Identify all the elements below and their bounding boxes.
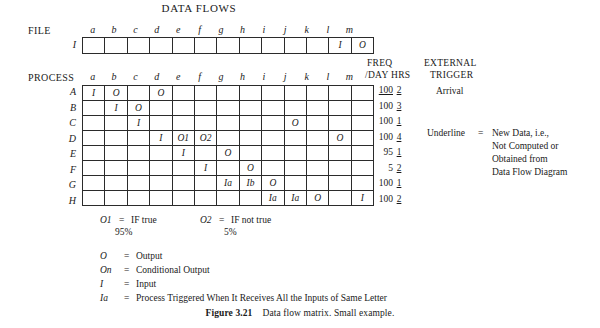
file-cell-I-l[interactable]: I — [329, 38, 351, 54]
process-cell-E-i[interactable] — [262, 146, 284, 161]
process-cell-F-k[interactable] — [306, 161, 328, 176]
process-cell-B-d[interactable] — [150, 101, 172, 116]
process-cell-A-k[interactable] — [306, 86, 328, 101]
process-cell-B-l[interactable] — [329, 101, 351, 116]
process-cell-E-a[interactable] — [83, 146, 105, 161]
process-cell-H-e[interactable] — [172, 191, 194, 206]
process-cell-D-k[interactable] — [306, 131, 328, 146]
file-cell-I-d[interactable] — [150, 38, 172, 54]
process-cell-H-b[interactable] — [105, 191, 127, 206]
process-cell-E-h[interactable] — [239, 146, 261, 161]
process-cell-C-i[interactable] — [262, 116, 284, 131]
process-cell-D-e[interactable]: O1 — [172, 131, 194, 146]
process-cell-E-d[interactable] — [150, 146, 172, 161]
process-cell-F-a[interactable] — [83, 161, 105, 176]
process-cell-B-c[interactable]: O — [127, 101, 149, 116]
file-cell-I-m[interactable]: O — [351, 38, 373, 54]
process-cell-E-e[interactable]: I — [172, 146, 194, 161]
process-cell-F-d[interactable] — [150, 161, 172, 176]
process-cell-F-l[interactable] — [329, 161, 351, 176]
process-cell-H-j[interactable]: Ia — [284, 191, 306, 206]
process-cell-A-j[interactable] — [284, 86, 306, 101]
process-cell-G-i[interactable]: O — [262, 176, 284, 191]
process-cell-C-l[interactable] — [329, 116, 351, 131]
process-cell-B-j[interactable] — [284, 101, 306, 116]
process-cell-D-l[interactable]: O — [329, 131, 351, 146]
process-cell-C-g[interactable] — [217, 116, 239, 131]
process-cell-C-j[interactable]: O — [284, 116, 306, 131]
process-cell-B-f[interactable] — [194, 101, 216, 116]
process-cell-D-c[interactable] — [127, 131, 149, 146]
process-cell-H-i[interactable]: Ia — [262, 191, 284, 206]
process-cell-E-b[interactable] — [105, 146, 127, 161]
process-cell-B-h[interactable] — [239, 101, 261, 116]
process-cell-D-h[interactable] — [239, 131, 261, 146]
process-cell-H-d[interactable] — [150, 191, 172, 206]
process-cell-D-a[interactable] — [83, 131, 105, 146]
process-cell-E-g[interactable]: O — [217, 146, 239, 161]
process-cell-G-e[interactable] — [172, 176, 194, 191]
process-cell-B-b[interactable]: I — [105, 101, 127, 116]
process-cell-H-k[interactable]: O — [306, 191, 328, 206]
file-cell-I-e[interactable] — [172, 38, 194, 54]
process-cell-A-i[interactable] — [262, 86, 284, 101]
process-cell-B-a[interactable] — [83, 101, 105, 116]
process-cell-G-a[interactable] — [83, 176, 105, 191]
file-cell-I-b[interactable] — [105, 38, 127, 54]
process-cell-E-f[interactable] — [194, 146, 216, 161]
process-cell-G-j[interactable] — [284, 176, 306, 191]
process-cell-F-b[interactable] — [105, 161, 127, 176]
process-cell-F-f[interactable]: I — [194, 161, 216, 176]
file-cell-I-h[interactable] — [239, 38, 261, 54]
process-cell-A-h[interactable] — [239, 86, 261, 101]
process-cell-C-d[interactable] — [150, 116, 172, 131]
file-cell-I-i[interactable] — [262, 38, 284, 54]
process-cell-C-k[interactable] — [306, 116, 328, 131]
process-cell-G-d[interactable] — [150, 176, 172, 191]
process-cell-E-l[interactable] — [329, 146, 351, 161]
process-cell-C-e[interactable] — [172, 116, 194, 131]
process-cell-C-a[interactable] — [83, 116, 105, 131]
file-cell-I-c[interactable] — [127, 38, 149, 54]
file-cell-I-k[interactable] — [306, 38, 328, 54]
process-cell-A-l[interactable] — [329, 86, 351, 101]
process-cell-G-f[interactable] — [194, 176, 216, 191]
process-cell-E-j[interactable] — [284, 146, 306, 161]
file-cell-I-f[interactable] — [194, 38, 216, 54]
process-cell-C-b[interactable] — [105, 116, 127, 131]
process-cell-H-l[interactable] — [329, 191, 351, 206]
process-cell-D-j[interactable] — [284, 131, 306, 146]
process-cell-D-f[interactable]: O2 — [194, 131, 216, 146]
process-cell-C-f[interactable] — [194, 116, 216, 131]
process-cell-D-b[interactable] — [105, 131, 127, 146]
process-cell-D-d[interactable]: I — [150, 131, 172, 146]
process-cell-A-e[interactable] — [172, 86, 194, 101]
process-cell-A-b[interactable]: O — [105, 86, 127, 101]
process-cell-F-h[interactable]: O — [239, 161, 261, 176]
process-cell-B-g[interactable] — [217, 101, 239, 116]
process-cell-F-c[interactable] — [127, 161, 149, 176]
file-cell-I-j[interactable] — [284, 38, 306, 54]
process-cell-A-g[interactable] — [217, 86, 239, 101]
process-cell-G-k[interactable] — [306, 176, 328, 191]
file-cell-I-g[interactable] — [217, 38, 239, 54]
process-cell-D-i[interactable] — [262, 131, 284, 146]
process-cell-F-e[interactable] — [172, 161, 194, 176]
process-cell-B-e[interactable] — [172, 101, 194, 116]
process-cell-D-g[interactable] — [217, 131, 239, 146]
file-cell-I-a[interactable] — [83, 38, 105, 54]
process-cell-A-d[interactable]: O — [150, 86, 172, 101]
process-cell-A-a[interactable]: I — [83, 86, 105, 101]
process-cell-H-f[interactable] — [194, 191, 216, 206]
process-cell-H-c[interactable] — [127, 191, 149, 206]
process-cell-H-g[interactable] — [217, 191, 239, 206]
process-cell-F-i[interactable] — [262, 161, 284, 176]
process-cell-E-c[interactable] — [127, 146, 149, 161]
process-cell-A-f[interactable] — [194, 86, 216, 101]
process-cell-G-l[interactable] — [329, 176, 351, 191]
process-cell-C-h[interactable] — [239, 116, 261, 131]
process-cell-G-c[interactable] — [127, 176, 149, 191]
process-cell-E-k[interactable] — [306, 146, 328, 161]
process-cell-F-g[interactable] — [217, 161, 239, 176]
process-cell-A-c[interactable] — [127, 86, 149, 101]
